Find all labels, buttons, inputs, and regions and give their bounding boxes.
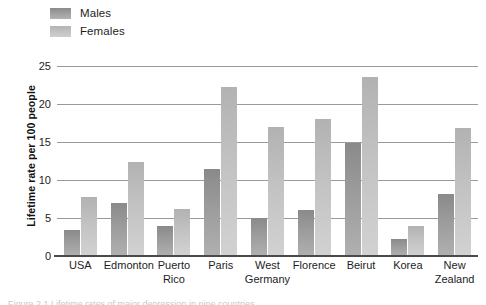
y-axis-title: Lifetime rate per 100 people — [25, 61, 37, 251]
y-tick-label: 25 — [39, 60, 51, 72]
x-tick-label: USA — [57, 259, 104, 273]
x-tick-label: Edmonton — [104, 259, 151, 273]
x-axis-line — [54, 255, 478, 257]
bar-females — [455, 128, 471, 256]
bar-group — [62, 66, 99, 256]
bar-group — [436, 66, 473, 256]
legend-item-males: Males — [50, 4, 210, 22]
bar-males — [298, 210, 314, 256]
y-tick-label: 20 — [39, 98, 51, 110]
x-tick-label: Paris — [197, 259, 244, 273]
bar-females — [81, 197, 97, 256]
bar-males — [438, 194, 454, 256]
y-tick-label: 10 — [39, 174, 51, 186]
bar-females — [128, 162, 144, 256]
plot-area: 0510152025 — [57, 66, 478, 256]
bar-group — [109, 66, 146, 256]
bar-males — [251, 218, 267, 256]
bar-males — [64, 230, 80, 256]
bar-females — [221, 87, 237, 256]
x-tick-label: WestGermany — [244, 259, 291, 286]
x-axis-labels: USAEdmontonPuertoRicoParisWestGermanyFlo… — [57, 259, 478, 301]
chart-legend: Males Females — [50, 4, 210, 40]
y-tick-label: 15 — [39, 136, 51, 148]
legend-label-females: Females — [80, 25, 125, 37]
bar-group — [343, 66, 380, 256]
legend-swatch-males-icon — [50, 8, 71, 19]
y-tick-label: 5 — [45, 212, 51, 224]
bar-group — [249, 66, 286, 256]
x-tick-label: PuertoRico — [151, 259, 198, 286]
x-tick-label: Korea — [384, 259, 431, 273]
bar-females — [408, 226, 424, 256]
bar-group — [155, 66, 192, 256]
figure-caption: Figure 2.1 Lifetime rates of major depre… — [8, 299, 478, 305]
bar-group — [202, 66, 239, 256]
legend-item-females: Females — [50, 22, 210, 40]
bar-males — [111, 203, 127, 256]
x-tick-label: Beirut — [338, 259, 385, 273]
x-tick-label: NewZealand — [431, 259, 478, 286]
bar-males — [345, 143, 361, 256]
bar-chart-figure: Males Females Lifetime rate per 100 peop… — [0, 0, 486, 305]
legend-label-males: Males — [80, 7, 111, 19]
y-tick-label: 0 — [45, 250, 51, 262]
bar-group — [389, 66, 426, 256]
legend-swatch-females-icon — [50, 26, 71, 37]
bar-females — [268, 127, 284, 256]
bar-females — [315, 119, 331, 256]
bar-females — [362, 77, 378, 256]
bar-males — [391, 239, 407, 256]
bar-group — [296, 66, 333, 256]
bar-females — [174, 209, 190, 256]
bar-males — [157, 226, 173, 256]
bar-males — [204, 169, 220, 256]
bars-container — [57, 66, 478, 256]
x-tick-label: Florence — [291, 259, 338, 273]
